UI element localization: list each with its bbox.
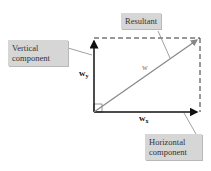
- vertical-leader: [68, 48, 92, 55]
- horizontal-label-line1: Horizontal: [149, 137, 198, 147]
- vertical-component-callout: Vertical component: [8, 40, 68, 66]
- vertical-label-line1: Vertical: [12, 43, 64, 53]
- wx-label: wx: [139, 113, 149, 123]
- vertical-label-line2: component: [12, 53, 64, 63]
- wx-base: w: [139, 113, 146, 123]
- wy-label: wy: [79, 68, 89, 78]
- horizontal-component-callout: Horizontal component: [145, 134, 202, 160]
- wx-subscript: x: [146, 118, 149, 124]
- resultant-label: Resultant: [125, 16, 157, 26]
- resultant-callout: Resultant: [121, 13, 161, 29]
- horizontal-label-line2: component: [149, 147, 198, 157]
- wy-base: w: [79, 68, 86, 78]
- w-resultant-label: w: [142, 63, 148, 72]
- resultant-leader: [158, 31, 170, 58]
- resultant-arrow: [94, 40, 197, 112]
- wy-subscript: y: [86, 73, 89, 79]
- horizontal-leader: [184, 113, 196, 134]
